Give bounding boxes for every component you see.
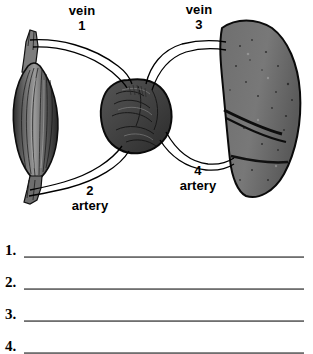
answer-blank-1[interactable]: [24, 256, 304, 258]
callout-vein-3-word: vein: [175, 2, 223, 17]
answer-row-4: 4.: [0, 328, 313, 354]
callout-vein-1-number: 1: [58, 18, 106, 33]
diagram-area: vein 1 vein 3 2 artery 4 artery: [0, 0, 313, 224]
answer-number-4: 4.: [0, 339, 22, 354]
callout-vein-3: vein 3: [175, 2, 223, 32]
anatomy-diagram-illustration: [0, 0, 313, 224]
answer-blank-2[interactable]: [24, 288, 304, 290]
callout-artery-4: 4 artery: [170, 163, 226, 193]
answer-number-3: 3.: [0, 307, 22, 322]
callout-artery-2: 2 artery: [62, 183, 118, 213]
answer-blank-3[interactable]: [24, 320, 304, 322]
callout-vein-1: vein 1: [58, 3, 106, 33]
organ-lung: [220, 21, 300, 198]
answer-row-3: 3.: [0, 296, 313, 322]
vessel-3-vein: [146, 41, 226, 90]
callout-artery-2-word: artery: [62, 198, 118, 213]
answer-row-2: 2.: [0, 264, 313, 290]
callout-vein-3-number: 3: [175, 17, 223, 32]
callout-vein-1-word: vein: [58, 3, 106, 18]
answer-lines-area: 1. 2. 3. 4.: [0, 228, 313, 350]
answer-number-1: 1.: [0, 243, 22, 258]
callout-artery-4-word: artery: [170, 178, 226, 193]
callout-artery-2-number: 2: [62, 183, 118, 198]
callout-artery-4-number: 4: [170, 163, 226, 178]
answer-row-1: 1.: [0, 232, 313, 258]
answer-number-2: 2.: [0, 275, 22, 290]
organ-skeletal-muscle: [13, 30, 58, 204]
